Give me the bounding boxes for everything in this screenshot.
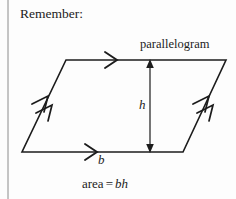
height-dimension-arrow: [146, 59, 154, 153]
area-formula-equals: =: [104, 176, 115, 191]
height-variable-label: h: [139, 98, 146, 111]
figure-drawing: [0, 0, 236, 199]
area-formula-lhs: area: [82, 176, 104, 191]
remember-heading: Remember:: [20, 7, 83, 21]
area-formula-height: h: [121, 176, 128, 191]
area-formula: area=bh: [82, 177, 128, 190]
parallelogram-figure: Remember: parallelogram h b area=bh: [0, 0, 236, 199]
parallelogram-shape-label: parallelogram: [140, 38, 209, 51]
base-variable-label: b: [98, 153, 105, 166]
